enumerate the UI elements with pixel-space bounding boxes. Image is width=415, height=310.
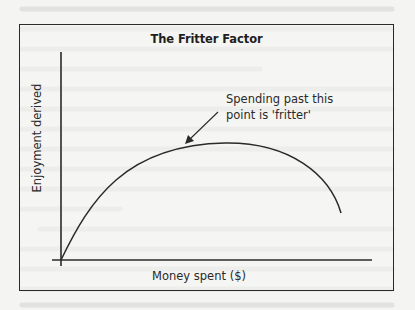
- annotation-line-1: Spending past this: [226, 91, 333, 107]
- x-axis-label: Money spent ($): [152, 269, 246, 283]
- plot-area: [0, 0, 415, 310]
- y-axis-label: Enjoyment derived: [30, 84, 44, 193]
- annotation-arrow: [190, 112, 218, 139]
- enjoyment-curve: [61, 143, 341, 260]
- annotation-line-2: point is 'fritter': [226, 107, 333, 123]
- annotation-text: Spending past this point is 'fritter': [226, 91, 333, 123]
